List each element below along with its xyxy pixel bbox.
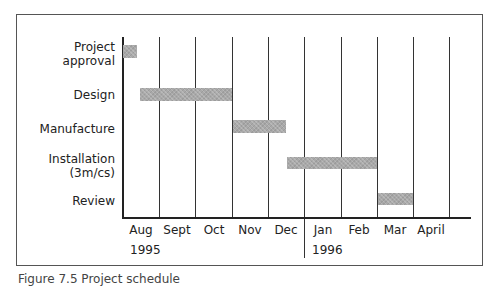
month-label-sept: Sept — [159, 223, 195, 237]
month-label-aug: Aug — [123, 223, 159, 237]
bar-installation — [287, 157, 377, 169]
month-label-feb: Feb — [341, 223, 377, 237]
task-label-installation: Installation (3m/cs) — [49, 152, 115, 180]
task-label-review: Review — [72, 194, 115, 208]
month-label-oct: Oct — [196, 223, 232, 237]
gridline-oct — [195, 37, 196, 218]
month-label-april: April — [413, 223, 449, 237]
task-label-manufacture: Manufacture — [40, 122, 115, 136]
figure-caption: Figure 7.5 Project schedule — [18, 272, 180, 286]
bar-review — [378, 193, 413, 205]
year-label-1995: 1995 — [130, 243, 161, 257]
y-axis — [122, 37, 124, 218]
gridline-end — [449, 37, 450, 218]
gridline-april — [413, 37, 414, 218]
bar-project-approval — [123, 45, 137, 58]
bar-manufacture — [233, 120, 286, 133]
month-label-nov: Nov — [232, 223, 268, 237]
year-label-1996: 1996 — [312, 243, 343, 257]
month-label-mar: Mar — [377, 223, 413, 237]
task-label-design: Design — [74, 88, 115, 102]
gridline-sept — [159, 37, 160, 218]
month-label-dec: Dec — [268, 223, 304, 237]
gridline-mar — [377, 37, 378, 218]
month-label-jan: Jan — [305, 223, 341, 237]
bar-design — [140, 88, 232, 101]
gridline-feb — [341, 37, 342, 218]
x-axis — [122, 217, 471, 219]
task-label-project-approval: Project approval — [63, 40, 115, 68]
